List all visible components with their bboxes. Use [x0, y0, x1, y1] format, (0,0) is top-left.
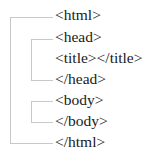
html-open-connector: [10, 17, 53, 18]
html-bracket-vertical: [10, 17, 11, 144]
head-close-connector: [31, 80, 53, 81]
body-open-connector: [31, 101, 53, 102]
node-head-open: <head>: [55, 27, 102, 47]
head-bracket-vertical: [31, 39, 32, 81]
node-html-close: </html>: [55, 132, 105, 152]
html-close-connector: [10, 143, 53, 144]
node-body-open: <body>: [55, 90, 103, 110]
body-bracket-vertical: [31, 101, 32, 123]
body-close-connector: [31, 122, 53, 123]
node-body-close: </body>: [55, 111, 108, 131]
node-html-open: <html>: [55, 5, 101, 25]
node-head-close: </head>: [55, 69, 106, 89]
node-title: <title></title>: [55, 48, 142, 68]
head-open-connector: [31, 39, 53, 40]
